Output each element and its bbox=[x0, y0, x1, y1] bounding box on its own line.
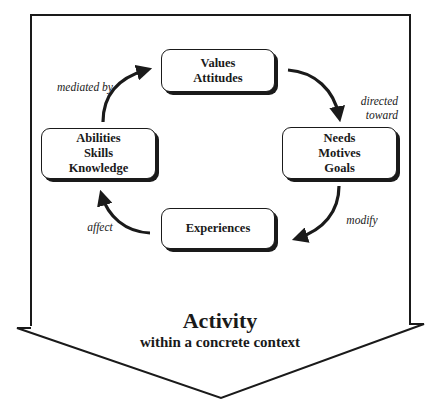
edge-label-line: toward bbox=[340, 108, 404, 122]
edge-label-line: mediated by bbox=[45, 80, 125, 94]
node-abilities-line: Abilities bbox=[76, 131, 120, 146]
arrow-directed-toward bbox=[288, 70, 339, 116]
edge-label-line: affect bbox=[80, 220, 120, 234]
edge-label-affect: affect bbox=[80, 220, 120, 234]
edge-label-modify: modify bbox=[340, 213, 384, 227]
arrow-modify bbox=[298, 186, 339, 238]
node-needs-line: Needs bbox=[324, 131, 356, 146]
edge-label-directed-toward: directed toward bbox=[340, 94, 404, 122]
node-abilities: Abilities Skills Knowledge bbox=[41, 128, 156, 179]
activity-subtitle: within a concrete context bbox=[0, 334, 440, 351]
node-experiences-line: Experiences bbox=[186, 221, 251, 236]
node-values-line: Values bbox=[201, 56, 236, 71]
node-needs-line: Goals bbox=[324, 161, 355, 176]
arrow-mediated-by bbox=[103, 70, 146, 122]
node-values-line: Attitudes bbox=[193, 71, 242, 86]
node-abilities-line: Knowledge bbox=[69, 161, 129, 176]
node-abilities-line: Skills bbox=[84, 146, 113, 161]
edge-label-mediated-by: mediated by bbox=[45, 80, 125, 94]
node-values: Values Attitudes bbox=[161, 49, 275, 92]
edge-label-line: modify bbox=[340, 213, 384, 227]
node-experiences: Experiences bbox=[161, 208, 275, 249]
edge-label-line: directed bbox=[340, 94, 404, 108]
activity-title: Activity bbox=[0, 309, 440, 333]
node-needs-line: Motives bbox=[318, 146, 360, 161]
node-needs: Needs Motives Goals bbox=[282, 127, 397, 179]
